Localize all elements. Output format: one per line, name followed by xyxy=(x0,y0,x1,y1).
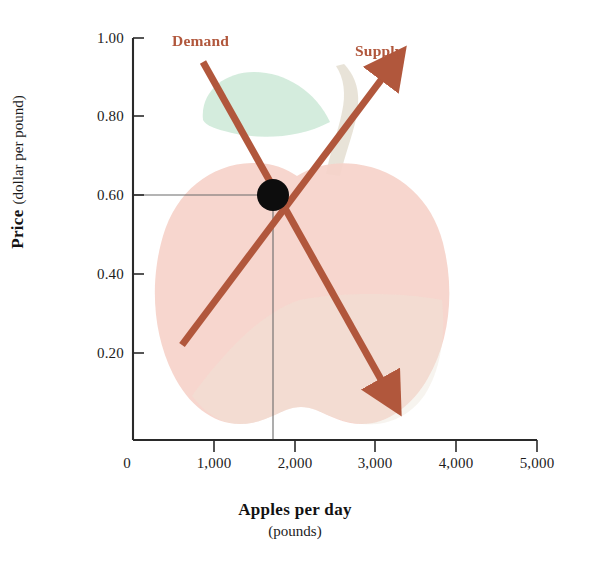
y-axis-ticks xyxy=(133,38,144,353)
x-tick-label: 1,000 xyxy=(179,455,249,472)
x-tick-label: 0 xyxy=(92,455,162,472)
y-axis-title: Price (dollar per pound) xyxy=(8,52,52,292)
supply-demand-chart-figure: 1.00 0.80 0.60 0.40 0.20 0 1,000 2,000 3… xyxy=(0,0,590,578)
y-tick-label: 0.80 xyxy=(68,108,124,125)
demand-curve-label: Demand xyxy=(172,32,229,50)
x-axis-title: Apples per day (pounds) xyxy=(0,500,590,540)
y-axis-title-units: (dollar per pound) xyxy=(10,95,27,204)
y-tick-label: 0.60 xyxy=(68,187,124,204)
chart-canvas xyxy=(0,0,590,578)
y-tick-label: 0.40 xyxy=(68,266,124,283)
x-tick-label: 2,000 xyxy=(260,455,330,472)
supply-curve-label: Supply xyxy=(355,42,403,60)
x-axis-ticks xyxy=(214,440,537,452)
y-tick-label: 0.20 xyxy=(68,345,124,362)
y-tick-label: 1.00 xyxy=(68,30,124,47)
y-axis-title-main: Price xyxy=(8,209,28,248)
x-axis-title-main: Apples per day xyxy=(0,500,590,520)
x-axis-title-units: (pounds) xyxy=(0,523,590,540)
equilibrium-point-marker xyxy=(257,179,289,211)
x-tick-label: 3,000 xyxy=(340,455,410,472)
x-tick-label: 4,000 xyxy=(421,455,491,472)
x-tick-label: 5,000 xyxy=(502,455,572,472)
apple-leaf-shape xyxy=(203,72,330,137)
